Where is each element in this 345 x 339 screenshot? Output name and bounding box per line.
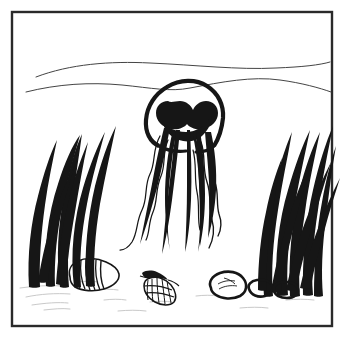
- illustration-canvas: Underwater Scene A framed pen-and-ink il…: [0, 0, 345, 339]
- underwater-scene-drawing: [0, 0, 345, 339]
